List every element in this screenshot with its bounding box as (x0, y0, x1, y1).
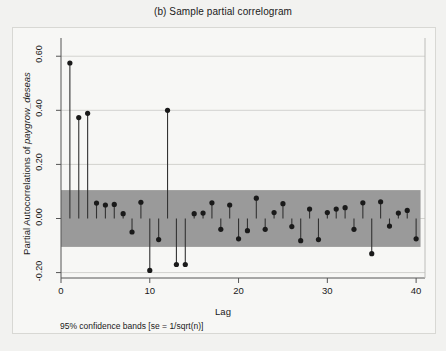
data-point (369, 251, 374, 256)
data-point (289, 224, 294, 229)
data-point (263, 227, 268, 232)
data-point (183, 262, 188, 267)
data-point (129, 229, 134, 234)
data-point (94, 200, 99, 205)
x-tick-label-1: 10 (135, 285, 165, 296)
x-tick-label-4: 40 (401, 285, 431, 296)
data-point (209, 200, 214, 205)
figure-container: (b) Sample partial correlogram Partial A… (0, 0, 446, 351)
x-axis-label: Lag (0, 306, 446, 317)
data-point (192, 211, 197, 216)
data-point (387, 223, 392, 228)
y-axis-label-prefix: Partial Autocorrelations of (21, 144, 32, 255)
y-axis-label: Partial Autocorrelations of paygrow_dese… (21, 34, 32, 294)
data-point (103, 202, 108, 207)
data-point (227, 202, 232, 207)
data-point (112, 202, 117, 207)
data-point (76, 115, 81, 120)
data-point (334, 206, 339, 211)
y-axis-label-variable: paygrow_deseas (21, 72, 32, 144)
data-point (174, 262, 179, 267)
correlogram-plot (0, 0, 446, 351)
y-tick-label-3: 0.40 (34, 91, 44, 125)
y-tick-label-2: 0.20 (34, 145, 44, 179)
data-point (67, 60, 72, 65)
data-point (280, 201, 285, 206)
data-point (396, 210, 401, 215)
data-point (121, 211, 126, 216)
data-point (414, 236, 419, 241)
data-point (316, 237, 321, 242)
data-point (360, 200, 365, 205)
data-point (245, 228, 250, 233)
y-tick-label-0: -0.20 (34, 254, 44, 288)
confidence-band-footnote: 95% confidence bands [se = 1/sqrt(n)] (60, 321, 203, 331)
data-point (218, 227, 223, 232)
data-point (156, 237, 161, 242)
y-tick-label-4: 0.60 (34, 37, 44, 71)
data-point (342, 205, 347, 210)
y-tick-label-1: 0.00 (34, 200, 44, 234)
data-point (298, 238, 303, 243)
x-tick-label-2: 20 (224, 285, 254, 296)
data-point (271, 210, 276, 215)
data-point (405, 208, 410, 213)
data-point (200, 210, 205, 215)
x-tick-label-0: 0 (46, 285, 76, 296)
data-point (165, 108, 170, 113)
data-point (147, 268, 152, 273)
data-point (307, 206, 312, 211)
data-point (236, 236, 241, 241)
data-point (325, 210, 330, 215)
data-point (85, 111, 90, 116)
data-point (254, 196, 259, 201)
data-point (351, 227, 356, 232)
data-point (378, 199, 383, 204)
x-tick-label-3: 30 (312, 285, 342, 296)
data-point (138, 200, 143, 205)
axis-ticks (56, 56, 416, 283)
